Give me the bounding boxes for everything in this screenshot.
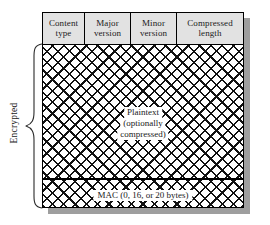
header-minor-version-line2: version — [140, 29, 167, 38]
header-cell-compressed-length: Compressed length — [177, 13, 243, 44]
header-cell-major-version: Major version — [85, 13, 131, 44]
plaintext-line1: Plaintext — [124, 107, 162, 118]
encrypted-label: Encrypted — [9, 83, 19, 163]
plaintext-line3: compressed) — [117, 129, 168, 140]
mac-label: MAC (0, 16, or 20 bytes) — [93, 190, 192, 201]
ssl-record-box: Content type Major version Minor version… — [42, 12, 244, 208]
plaintext-line2: (optionally — [120, 118, 166, 129]
record-header-row: Content type Major version Minor version… — [43, 13, 243, 45]
mac-divider-line — [43, 178, 243, 180]
plaintext-label: Plaintext (optionally compressed) — [117, 107, 168, 140]
figure-canvas: Encrypted Content type Major version Min… — [0, 0, 270, 225]
header-compressed-length-line2: length — [187, 29, 233, 38]
header-major-version-line2: version — [94, 29, 121, 38]
header-cell-content-type: Content type — [43, 13, 85, 44]
header-cell-minor-version: Minor version — [131, 13, 177, 44]
encrypted-region: Plaintext (optionally compressed) MAC (0… — [43, 45, 243, 207]
header-content-type-line2: type — [49, 29, 78, 38]
encrypted-brace — [24, 42, 44, 210]
